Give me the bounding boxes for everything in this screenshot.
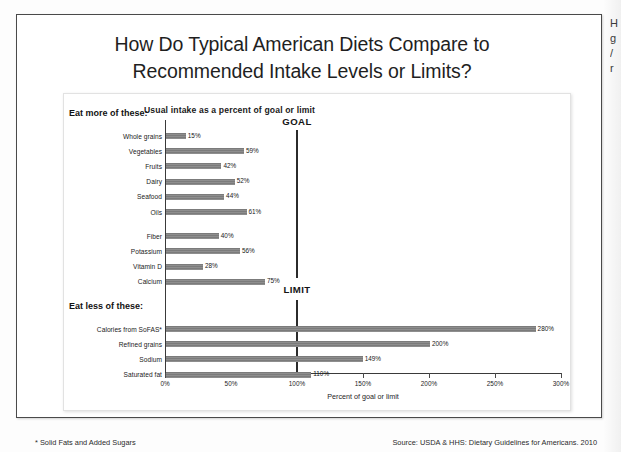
page-title-line-1: How Do Typical American Diets Compare to bbox=[115, 33, 490, 55]
bar-category-label: Fiber bbox=[66, 233, 162, 240]
bar bbox=[166, 248, 240, 254]
bar-category-label: Refined grains bbox=[66, 341, 162, 348]
page-title: How Do Typical American Diets Compare to… bbox=[47, 31, 557, 85]
bar-value-label: 200% bbox=[432, 340, 448, 347]
limit-reference-line bbox=[296, 300, 298, 374]
bar-value-label: 44% bbox=[226, 192, 239, 199]
goal-reference-label: GOAL bbox=[282, 116, 311, 127]
x-axis-tick-label: 50% bbox=[225, 380, 238, 387]
bar-value-label: 110% bbox=[313, 370, 329, 377]
bar-value-label: 149% bbox=[365, 355, 381, 362]
x-axis-title: Percent of goal or limit bbox=[165, 392, 561, 401]
bar bbox=[166, 194, 224, 200]
bar-value-label: 75% bbox=[267, 277, 280, 284]
bar-group-heading: Eat more of these: bbox=[69, 108, 148, 118]
margin-annotation: H g / r bbox=[610, 16, 621, 76]
bar-chart-plot: GOAL LIMIT Percent of goal or limit 0%50… bbox=[64, 94, 572, 412]
bar-category-label: Oils bbox=[66, 209, 162, 216]
bar-category-label: Calories from SoFAS* bbox=[66, 326, 162, 333]
bar-category-label: Vitamin D bbox=[66, 263, 162, 270]
bar bbox=[166, 264, 203, 270]
x-axis-tick-label: 200% bbox=[421, 380, 437, 387]
x-axis-tick-label: 300% bbox=[553, 380, 569, 387]
bar-category-label: Calcium bbox=[66, 278, 162, 285]
margin-annotation-line-2: g bbox=[610, 31, 621, 46]
bar bbox=[166, 209, 247, 215]
bar-category-label: Dairy bbox=[66, 178, 162, 185]
bar-category-label: Vegetables bbox=[66, 148, 162, 155]
slide-frame: How Do Typical American Diets Compare to… bbox=[16, 14, 602, 418]
bar bbox=[166, 133, 186, 139]
bar-group-heading: Eat less of these: bbox=[69, 301, 143, 311]
margin-annotation-line-1: H bbox=[610, 16, 621, 31]
bar-category-label: Potassium bbox=[66, 248, 162, 255]
bar-category-label: Whole grains bbox=[66, 133, 162, 140]
bar bbox=[166, 372, 311, 378]
x-axis-tick bbox=[561, 373, 562, 378]
bar-value-label: 61% bbox=[249, 208, 262, 215]
bar-value-label: 15% bbox=[188, 132, 201, 139]
x-axis-tick-label: 150% bbox=[355, 380, 371, 387]
x-axis-tick-label: 100% bbox=[289, 380, 305, 387]
bar-value-label: 42% bbox=[223, 162, 236, 169]
footnote: * Solid Fats and Added Sugars bbox=[35, 438, 136, 447]
bar-value-label: 280% bbox=[538, 325, 554, 332]
bar bbox=[166, 179, 235, 185]
goal-reference-line bbox=[296, 130, 298, 278]
bar bbox=[166, 279, 265, 285]
bar-value-label: 28% bbox=[205, 262, 218, 269]
bar-value-label: 56% bbox=[242, 247, 255, 254]
margin-annotation-line-3: / bbox=[610, 46, 621, 61]
bar bbox=[166, 341, 430, 347]
chart-panel: Usual intake as a percent of goal or lim… bbox=[63, 93, 571, 411]
bar bbox=[166, 148, 244, 154]
x-axis-tick-label: 0% bbox=[160, 380, 169, 387]
y-axis-line bbox=[165, 120, 166, 373]
bar-value-label: 59% bbox=[246, 147, 259, 154]
x-axis-tick-label: 250% bbox=[487, 380, 503, 387]
page-title-line-2: Recommended Intake Levels or Limits? bbox=[47, 58, 557, 85]
bar bbox=[166, 233, 219, 239]
bar bbox=[166, 356, 363, 362]
bar bbox=[166, 163, 221, 169]
bar-value-label: 40% bbox=[221, 232, 234, 239]
x-axis-tick bbox=[363, 373, 364, 378]
x-axis-tick bbox=[429, 373, 430, 378]
bar bbox=[166, 326, 536, 332]
source-note: Source: USDA & HHS: Dietary Guidelines f… bbox=[392, 438, 597, 447]
margin-annotation-line-4: r bbox=[610, 61, 621, 76]
scanned-page: How Do Typical American Diets Compare to… bbox=[0, 0, 621, 452]
bar-category-label: Sodium bbox=[66, 356, 162, 363]
limit-reference-label: LIMIT bbox=[283, 284, 310, 295]
bar-category-label: Saturated fat bbox=[66, 371, 162, 378]
bar-value-label: 52% bbox=[237, 177, 250, 184]
x-axis-tick bbox=[495, 373, 496, 378]
bar-category-label: Fruits bbox=[66, 163, 162, 170]
bar-category-label: Seafood bbox=[66, 193, 162, 200]
